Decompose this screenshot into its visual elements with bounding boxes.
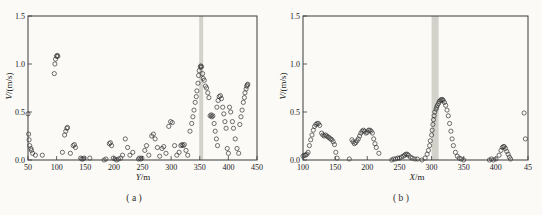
x-tick-label: 100 [51,163,63,172]
y-tick-label: 1.0 [15,60,25,69]
data-points-b [301,97,528,162]
scatter-plot-b: 100150200250300350400450.00.51.01.5 [271,0,542,215]
y-axis-unit-a: /(m/s) [4,73,14,95]
scatter-panel-a: 501001502002503003504004500.00.51.01.5 V… [0,0,271,215]
x-tick-label: 350 [458,163,470,172]
y-axis-unit-b: /(m/s) [278,73,288,95]
x-axis-label-a: Y/m [136,173,151,182]
x-tick-label: 350 [194,163,206,172]
scatter-panel-b: 100150200250300350400450.00.51.01.5 V/(m… [271,0,542,215]
x-tick-label: 400 [222,163,234,172]
x-axis-label-b: X/m [409,173,424,182]
figure: 501001502002503003504004500.00.51.01.5 V… [0,0,542,215]
y-axis-ticks-b: 0.00.51.01.5 [290,12,307,165]
y-tick-label: 1.5 [290,12,300,21]
x-axis-ticks-a: 50100150200250300350400450 [24,156,263,172]
x-tick-label: 150 [329,163,341,172]
x-tick-label: 450 [251,163,263,172]
y-tick-label: 0.0 [15,156,25,165]
y-tick-label: 0.5 [15,108,25,117]
highlight-band-a [199,16,203,160]
y-axis-label-b: V/(m/s) [279,73,288,100]
x-axis-unit-a: /m [141,172,151,182]
x-tick-label: 250 [393,163,405,172]
y-tick-label: 0.5 [290,108,300,117]
y-axis-variable-a: V [4,94,14,100]
y-tick-label: 0.0 [290,156,300,165]
y-axis-variable-b: V [278,94,288,100]
data-points-a [26,53,250,162]
x-tick-label: 300 [165,163,177,172]
x-tick-label: 150 [79,163,91,172]
plot-frame-a [28,16,257,160]
caption-b: ( b ) [393,193,409,203]
x-tick-label: 45 [524,163,532,172]
caption-a: ( a ) [126,193,141,203]
x-tick-label: 400 [490,163,502,172]
x-axis-unit-b: /m [415,172,425,182]
x-tick-label: 250 [137,163,149,172]
x-tick-label: 200 [108,163,120,172]
scatter-plot-a: 501001502002503003504004500.00.51.01.5 [0,0,271,215]
x-tick-label: 200 [361,163,373,172]
plot-frame-b [303,16,528,160]
y-axis-label-a: V/(m/s) [5,73,14,100]
x-tick-label: 300 [426,163,438,172]
highlight-band-b [432,16,439,160]
x-tick-label: 50 [24,163,32,172]
y-tick-label: 1.5 [15,12,25,21]
y-tick-label: 1.0 [290,60,300,69]
